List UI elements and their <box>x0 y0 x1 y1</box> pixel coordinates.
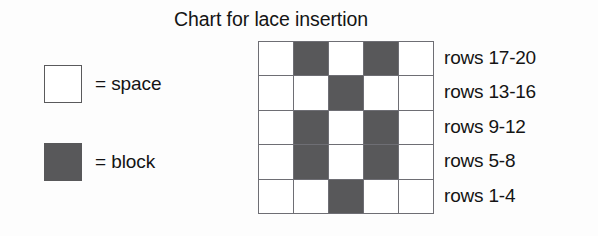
chart-grid-row <box>259 145 434 179</box>
chart-cell-space <box>259 179 294 213</box>
chart-cell-block <box>294 42 329 76</box>
empty-square-swatch-icon <box>44 65 82 103</box>
chart-grid-row <box>259 76 434 110</box>
row-label: rows 1-4 <box>444 179 536 213</box>
chart-cell-space <box>399 42 434 76</box>
chart-cell-space <box>259 42 294 76</box>
chart-cell-block <box>329 179 364 213</box>
chart-cell-space <box>294 179 329 213</box>
chart-grid-container <box>258 41 434 214</box>
chart-cell-space <box>399 76 434 110</box>
chart-cell-block <box>364 145 399 179</box>
chart-cell-space <box>399 179 434 213</box>
chart-grid <box>258 41 434 214</box>
row-label: rows 13-16 <box>444 75 536 109</box>
chart-cell-space <box>329 42 364 76</box>
chart-cell-block <box>294 110 329 144</box>
chart-grid-row <box>259 42 434 76</box>
chart-cell-space <box>259 76 294 110</box>
lace-insertion-chart-figure: Chart for lace insertion = space = block… <box>0 0 598 236</box>
row-label: rows 5-8 <box>444 144 536 178</box>
filled-square-swatch-icon <box>44 143 82 181</box>
chart-cell-space <box>259 110 294 144</box>
row-label: rows 9-12 <box>444 110 536 144</box>
legend: = space = block <box>44 64 229 220</box>
chart-grid-row <box>259 110 434 144</box>
legend-item-block: = block <box>44 142 229 182</box>
chart-cell-block <box>329 76 364 110</box>
chart-cell-space <box>399 110 434 144</box>
chart-cell-space <box>259 145 294 179</box>
chart-cell-block <box>294 145 329 179</box>
chart-cell-space <box>329 145 364 179</box>
chart-cell-space <box>364 76 399 110</box>
chart-cell-block <box>364 110 399 144</box>
chart-cell-space <box>399 145 434 179</box>
chart-cell-space <box>364 179 399 213</box>
legend-item-space-label: = space <box>95 73 161 95</box>
row-label-list: rows 17-20rows 13-16rows 9-12rows 5-8row… <box>444 41 536 213</box>
chart-cell-space <box>294 76 329 110</box>
legend-item-space: = space <box>44 64 229 104</box>
chart-cell-space <box>329 110 364 144</box>
row-label: rows 17-20 <box>444 41 536 75</box>
legend-item-block-label: = block <box>95 151 155 173</box>
page-title: Chart for lace insertion <box>0 8 570 31</box>
chart-cell-block <box>364 42 399 76</box>
chart-grid-row <box>259 179 434 213</box>
